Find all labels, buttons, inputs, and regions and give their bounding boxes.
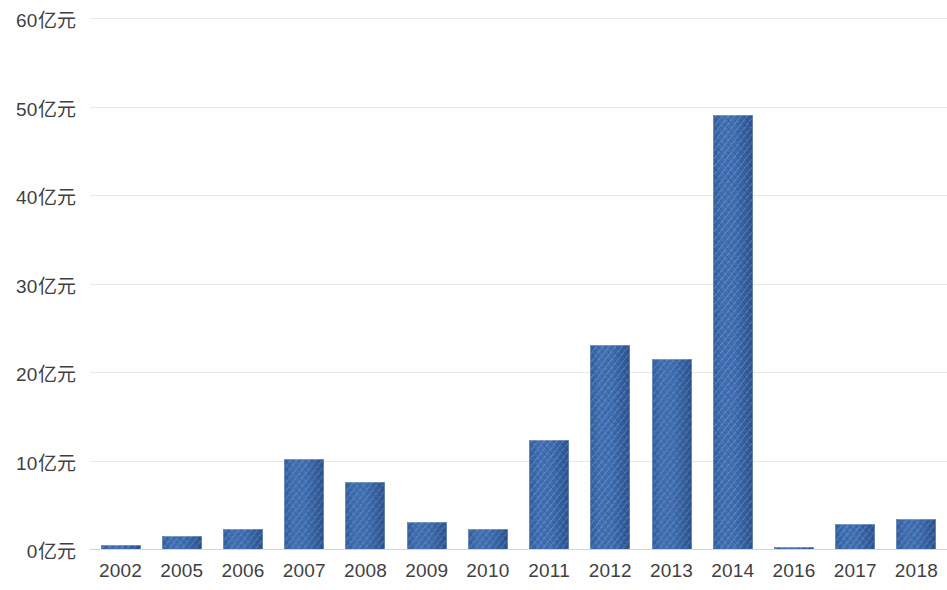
bar — [836, 524, 875, 549]
x-axis-tick-label: 2014 — [702, 560, 763, 582]
x-axis-tick-label: 2008 — [335, 560, 396, 582]
y-axis-tick-label: 50亿元 — [0, 93, 76, 120]
bar-slot — [886, 18, 947, 549]
bar-slot — [763, 18, 824, 549]
bar-slot — [825, 18, 886, 549]
bar — [530, 440, 569, 549]
bar-chart: 2002200520062007200820092010201120122013… — [0, 0, 947, 590]
x-axis-tick-labels: 2002200520062007200820092010201120122013… — [90, 560, 947, 590]
x-axis-tick-label: 2018 — [886, 560, 947, 582]
bar-slot — [396, 18, 457, 549]
x-axis-tick-label: 2002 — [90, 560, 151, 582]
bar — [162, 536, 201, 549]
bar-slot — [212, 18, 273, 549]
bar — [591, 345, 630, 549]
bar-slot — [274, 18, 335, 549]
bar-slot — [702, 18, 763, 549]
y-axis-tick-label: 60亿元 — [0, 5, 76, 32]
x-axis-tick-label: 2005 — [151, 560, 212, 582]
bar-slot — [90, 18, 151, 549]
bar — [224, 529, 263, 549]
bar-slot — [519, 18, 580, 549]
bar — [652, 359, 691, 549]
bar — [346, 482, 385, 549]
axis-baseline — [90, 549, 947, 550]
bar — [713, 115, 752, 549]
bar — [407, 522, 446, 549]
x-axis-tick-label: 2012 — [580, 560, 641, 582]
y-axis-tick-label: 20亿元 — [0, 359, 76, 386]
bar-slot — [580, 18, 641, 549]
bar-slot — [457, 18, 518, 549]
y-axis-tick-label: 30亿元 — [0, 270, 76, 297]
x-axis-tick-label: 2006 — [212, 560, 273, 582]
bar — [468, 529, 507, 549]
x-axis-tick-label: 2016 — [763, 560, 824, 582]
x-axis-tick-label: 2010 — [457, 560, 518, 582]
y-axis-tick-label: 10亿元 — [0, 447, 76, 474]
bar — [285, 459, 324, 549]
y-axis-tick-label: 40亿元 — [0, 182, 76, 209]
bar-slot — [641, 18, 702, 549]
x-axis-tick-label: 2017 — [825, 560, 886, 582]
x-axis-tick-label: 2009 — [396, 560, 457, 582]
bars — [90, 18, 947, 549]
x-axis-tick-label: 2007 — [274, 560, 335, 582]
bar — [897, 519, 936, 549]
y-axis-tick-label: 0亿元 — [0, 536, 76, 563]
x-axis-tick-label: 2011 — [519, 560, 580, 582]
plot-area — [90, 18, 947, 549]
bar — [101, 545, 140, 549]
bar — [774, 547, 813, 549]
bar-slot — [335, 18, 396, 549]
bar-slot — [151, 18, 212, 549]
x-axis-tick-label: 2013 — [641, 560, 702, 582]
